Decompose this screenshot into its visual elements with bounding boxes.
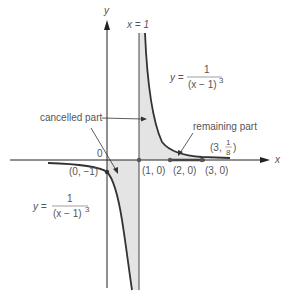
svg-text:1: 1 (67, 193, 73, 204)
point-1-0 (137, 158, 141, 162)
svg-text:(x − 1): (x − 1) (53, 208, 82, 219)
y-axis-label: y (103, 5, 110, 16)
remaining-part-label: remaining part (193, 121, 257, 132)
cancelled-part-label: cancelled part (40, 112, 102, 123)
point-3-0 (200, 158, 204, 162)
svg-text:y =: y = (32, 201, 47, 212)
lower-formula: y = 1 (x − 1) 3 (32, 193, 90, 219)
svg-text:3: 3 (219, 76, 224, 85)
label-point-0-minus1: (0, −1) (69, 166, 98, 177)
cancelled-arrow-to-upper (102, 118, 143, 119)
cancelled-arrow-to-lower (91, 128, 116, 170)
graph-figure: y x 0 x = 1 y = 1 (x − 1) 3 y = 1 (x − 1… (0, 0, 285, 293)
svg-text:1: 1 (226, 138, 231, 147)
label-point-3-one-eighth: (3, 1 8 ) (210, 138, 236, 157)
svg-text:1: 1 (204, 64, 210, 75)
origin-label: 0 (97, 148, 103, 159)
svg-text:8: 8 (226, 148, 231, 157)
svg-text:3: 3 (85, 205, 90, 214)
shaded-upper-region (139, 33, 202, 160)
svg-text:): ) (233, 142, 236, 153)
svg-text:(x − 1): (x − 1) (188, 79, 217, 90)
asymptote-label: x = 1 (126, 19, 149, 30)
svg-text:(3,: (3, (210, 142, 222, 153)
remaining-arrow (180, 133, 193, 153)
svg-text:y =: y = (169, 72, 184, 83)
x-axis-arrow-icon (260, 157, 270, 163)
point-2-0 (168, 158, 172, 162)
x-axis-label: x (274, 154, 281, 165)
upper-formula: y = 1 (x − 1) 3 (169, 64, 224, 90)
y-axis-arrow-icon (104, 20, 110, 30)
label-point-1-0: (1, 0) (142, 165, 165, 176)
label-point-2-0: (2, 0) (173, 165, 196, 176)
label-point-3-0: (3, 0) (205, 165, 228, 176)
point-0-minus1 (105, 170, 109, 174)
